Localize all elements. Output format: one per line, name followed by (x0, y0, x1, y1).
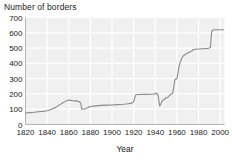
y-tick-200: 200 (9, 90, 23, 99)
x-tick-1900: 1900 (103, 128, 121, 137)
x-axis-label-text: Year (116, 144, 133, 154)
x-tick-1840: 1840 (38, 128, 56, 137)
chart-plot: 0100200300400500600700 18201840186018801… (0, 0, 232, 161)
x-tick-1980: 1980 (190, 128, 208, 137)
x-tick-1860: 1860 (60, 128, 78, 137)
x-tick-1880: 1880 (81, 128, 99, 137)
y-tick-100: 100 (9, 105, 23, 114)
y-tick-400: 400 (9, 59, 23, 68)
x-axis-title: Year (116, 144, 133, 154)
y-axis-tick-labels: 0100200300400500600700 (9, 14, 23, 130)
x-tick-1920: 1920 (125, 128, 143, 137)
x-axis-tick-labels: 1820184018601880190019201940196019802000 (17, 128, 230, 137)
y-tick-500: 500 (9, 44, 23, 53)
x-tick-1960: 1960 (168, 128, 186, 137)
x-tick-2000: 2000 (211, 128, 229, 137)
chart-container: Number of borders 0100200300400500600700… (0, 0, 232, 161)
y-tick-700: 700 (9, 14, 23, 23)
x-tick-1820: 1820 (17, 128, 35, 137)
y-tick-300: 300 (9, 75, 23, 84)
x-tick-1940: 1940 (146, 128, 164, 137)
plot-background (26, 18, 225, 125)
y-tick-600: 600 (9, 29, 23, 38)
